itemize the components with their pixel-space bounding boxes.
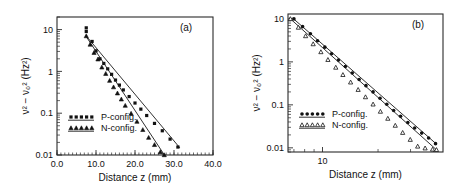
data-point-square	[169, 138, 172, 141]
legend-label-p-config: P-config.	[101, 112, 137, 122]
x-axis-title: Distance z (mm)	[99, 172, 172, 183]
data-point-dot	[420, 131, 424, 135]
data-point-square	[176, 145, 179, 148]
y-tick-label: 0.1	[271, 100, 284, 110]
panel-label: (a)	[180, 22, 192, 33]
y-tick-label: 1	[279, 57, 284, 67]
data-point-dot	[311, 112, 315, 116]
y-tick-label: 0.1	[40, 108, 53, 118]
data-point-square	[75, 115, 78, 118]
data-point-dot	[321, 112, 325, 116]
figure-svg: 0.010.11100.010.020.030.040.0Distance z …	[0, 0, 462, 189]
x-tick-label: 10.0	[87, 159, 105, 169]
data-point-square	[139, 108, 142, 111]
data-point-dot	[300, 112, 304, 116]
data-point-square	[85, 26, 88, 29]
x-tick-label: 20.0	[126, 159, 144, 169]
data-point-square	[91, 40, 94, 43]
legend-label-n-config: N-config.	[332, 120, 368, 130]
figure-container: 0.010.11100.010.020.030.040.0Distance z …	[0, 0, 462, 189]
legend-label-n-config: N-config.	[101, 123, 137, 133]
data-point-square	[90, 115, 93, 118]
y-tick-label: 10	[274, 14, 284, 24]
x-tick-label: 30.0	[165, 159, 183, 169]
figure-background	[0, 0, 462, 189]
y-axis-title: ν² − ν₀² (Hz²)	[251, 54, 262, 111]
data-point-square	[85, 30, 88, 33]
data-point-square	[85, 115, 88, 118]
data-point-dot	[301, 25, 305, 29]
data-point-square	[153, 122, 156, 125]
x-axis-title: Distance z (mm)	[329, 169, 402, 180]
data-point-dot	[434, 142, 438, 146]
x-tick-label: 40.0	[204, 159, 222, 169]
data-point-dot	[427, 136, 431, 140]
data-point-square	[128, 95, 131, 98]
data-point-square	[80, 115, 83, 118]
y-axis-title: ν² − ν₀² (Hz²)	[20, 57, 31, 114]
y-tick-label: 1	[48, 67, 53, 77]
y-tick-label: 0.01	[266, 143, 284, 153]
x-tick-label: 10	[318, 156, 328, 166]
legend-label-p-config: P-config.	[332, 109, 368, 119]
data-point-square	[145, 114, 148, 117]
data-point-square	[133, 101, 136, 104]
data-point-dot	[305, 112, 309, 116]
y-tick-label: 10	[43, 25, 53, 35]
data-point-dot	[316, 112, 320, 116]
data-point-dot	[309, 32, 313, 36]
panel-label: (b)	[412, 19, 424, 30]
data-point-square	[69, 115, 72, 118]
data-point-square	[161, 129, 164, 132]
x-tick-label: 0.0	[51, 159, 64, 169]
